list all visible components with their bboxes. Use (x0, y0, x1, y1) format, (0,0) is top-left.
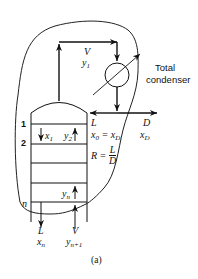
distillation-diagram: V y1 Total condenser L x0 = xD R = LD D … (0, 0, 198, 279)
bottom-vapor-flow-label: V (72, 226, 78, 236)
reflux-comp-label: x0 = xD (91, 130, 120, 142)
condensate-line (90, 87, 157, 113)
envelope-boundary (15, 21, 138, 214)
bottom-liquid-flow-label: L (38, 226, 44, 236)
reflux-flow-label: L (91, 118, 97, 128)
bottom-vapor-comp-label: yn+1 (66, 237, 82, 249)
top-vapor-flow-label: V (84, 47, 90, 57)
stage-n-label: n (22, 199, 27, 209)
reflux-ratio-label: R = LD (91, 145, 116, 166)
stage-2-label: 2 (21, 139, 26, 148)
x1-label: x1 (45, 131, 53, 143)
condenser-label-line1: Total (155, 63, 175, 73)
distillate-comp-label: xD (140, 130, 150, 142)
figure-caption: (a) (91, 256, 102, 266)
y2-label: y2 (64, 131, 72, 143)
distillate-flow-label: D (143, 118, 150, 128)
top-vapor-comp-label: y1 (82, 58, 90, 70)
bottom-liquid-comp-label: xn (37, 237, 45, 249)
stage-1-label: 1 (21, 120, 26, 129)
column (31, 103, 87, 223)
condenser-label-line2: condenser (146, 75, 190, 85)
yn-label: yn (62, 189, 70, 201)
